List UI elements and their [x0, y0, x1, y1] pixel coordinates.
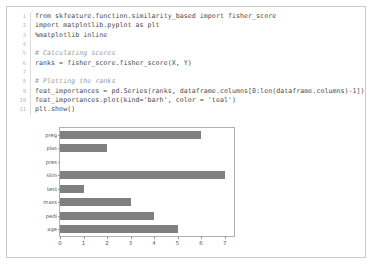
y-axis-tick [58, 216, 60, 217]
y-axis-tick [58, 162, 60, 163]
line-number: 10 [14, 96, 26, 105]
code-line: 4 [14, 40, 360, 49]
code-line: 1from skfeature.function.similarity_base… [14, 12, 360, 21]
y-axis-label: pres [46, 159, 57, 165]
code-line-list: 1from skfeature.function.similarity_base… [14, 12, 360, 115]
x-axis-tick-label: 6 [199, 240, 202, 246]
code-text: # Plotting the ranks [35, 77, 115, 86]
line-number: 3 [14, 31, 26, 40]
bar [60, 212, 154, 220]
notebook-card: 1from skfeature.function.similarity_base… [6, 6, 366, 258]
line-number: 7 [14, 68, 26, 77]
y-axis-tick [58, 189, 60, 190]
bar-row: age [60, 223, 234, 237]
bar [60, 198, 131, 206]
x-axis-tick-label: 2 [105, 240, 108, 246]
line-number: 11 [14, 105, 26, 114]
y-axis-tick [58, 202, 60, 203]
bar-row: pedi [60, 209, 234, 223]
bar-row: preg [60, 128, 234, 142]
bar-slot [60, 212, 234, 220]
code-line: 2import matplotlib.pyplot as plt [14, 21, 360, 30]
bar [60, 171, 225, 179]
y-axis-label: test [47, 186, 57, 192]
code-line: 7 [14, 68, 360, 77]
y-axis-label: skin [47, 172, 57, 178]
y-axis-label: age [47, 226, 57, 232]
code-line: 8# Plotting the ranks [14, 77, 360, 86]
bar [60, 225, 178, 233]
code-text: ranks = fisher_score.fisher_score(X, Y) [35, 59, 192, 68]
code-line: 9feat_importances = pd.Series(ranks, dat… [14, 87, 360, 96]
y-axis-label: pedi [46, 213, 57, 219]
code-line: 10feat_importances.plot(kind='barh', col… [14, 96, 360, 105]
code-text: # Calculating scores [35, 49, 115, 58]
plot-area: agepedimasstestskinpresplaspreg 01234567 [59, 127, 235, 237]
bar-slot [60, 185, 234, 193]
bar-slot [60, 225, 234, 233]
y-axis-tick [58, 135, 60, 136]
line-number: 2 [14, 21, 26, 30]
x-axis-tick-label: 1 [82, 240, 85, 246]
bar-row: mass [60, 196, 234, 210]
x-axis-tick-label: 5 [176, 240, 179, 246]
bar-row: skin [60, 169, 234, 183]
x-axis-tick-label: 3 [129, 240, 132, 246]
x-axis-tick-label: 4 [152, 240, 155, 246]
code-line: 6ranks = fisher_score.fisher_score(X, Y) [14, 59, 360, 68]
line-number: 8 [14, 77, 26, 86]
code-cell[interactable]: 1from skfeature.function.similarity_base… [14, 12, 360, 116]
bar-row: test [60, 182, 234, 196]
bar [60, 185, 84, 193]
bar-slot [60, 144, 234, 152]
bar-slot [60, 131, 234, 139]
line-number: 9 [14, 87, 26, 96]
code-line: 11plt.show() [14, 105, 360, 114]
bar-row: plas [60, 142, 234, 156]
y-axis-label: mass [43, 199, 57, 205]
bar [60, 144, 107, 152]
bar-slot [60, 171, 234, 179]
bar-slot [60, 158, 234, 166]
chart-output: agepedimasstestskinpresplaspreg 01234567 [14, 119, 360, 255]
code-text: %matplotlib inline [35, 31, 107, 40]
x-axis-tick-label: 0 [58, 240, 61, 246]
code-text: plt.show() [35, 105, 75, 114]
bar [60, 131, 201, 139]
line-number: 1 [14, 12, 26, 21]
code-line: 3%matplotlib inline [14, 31, 360, 40]
code-text: feat_importances = pd.Series(ranks, data… [35, 87, 365, 96]
bar-row: pres [60, 155, 234, 169]
code-text: import matplotlib.pyplot as plt [35, 21, 160, 30]
code-line: 5# Calculating scores [14, 49, 360, 58]
y-axis-label: plas [46, 145, 57, 151]
y-axis-label: preg [45, 132, 57, 138]
bar-slot [60, 198, 234, 206]
code-text: feat_importances.plot(kind='barh', color… [35, 96, 236, 105]
x-axis-tick-label: 7 [223, 240, 226, 246]
matplotlib-figure: agepedimasstestskinpresplaspreg 01234567 [14, 119, 360, 255]
y-axis-tick [58, 148, 60, 149]
y-axis-tick [58, 175, 60, 176]
y-axis-tick [58, 229, 60, 230]
line-number: 6 [14, 59, 26, 68]
line-number: 5 [14, 49, 26, 58]
code-text: from skfeature.function.similarity_based… [35, 12, 276, 21]
line-number: 4 [14, 40, 26, 49]
